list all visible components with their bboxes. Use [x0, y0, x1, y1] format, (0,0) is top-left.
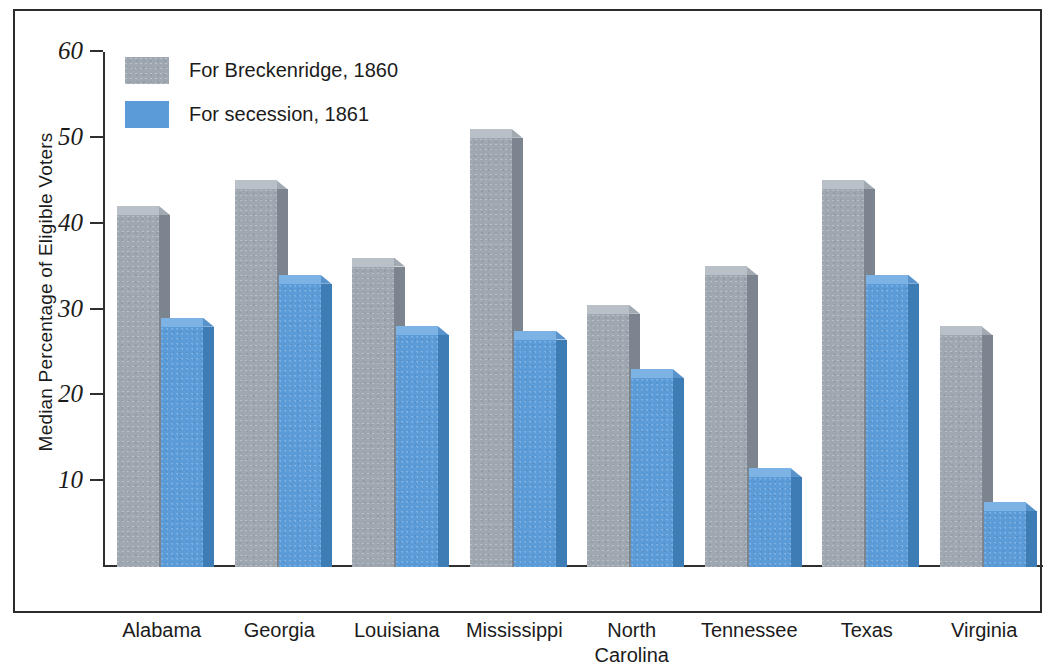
y-axis-tick — [90, 136, 103, 138]
bar-side-face — [908, 284, 919, 567]
legend-item: For Breckenridge, 1860 — [125, 55, 398, 86]
bar-top-corner — [277, 180, 288, 189]
bar-top-face — [984, 502, 1026, 511]
bar-top-face — [866, 275, 908, 284]
bar-top-face — [117, 206, 159, 215]
legend-item: For secession, 1861 — [125, 99, 398, 130]
bar-side-face — [1026, 511, 1037, 567]
bar-face — [587, 314, 629, 567]
bar-top-corner — [394, 258, 405, 267]
chart-frame: Median Percentage of Eligible Voters 102… — [13, 9, 1042, 613]
bar-face — [984, 511, 1026, 567]
bar-side-face — [673, 378, 684, 567]
bar-top-face — [631, 369, 673, 378]
bar-top-corner — [982, 326, 993, 335]
bar-face — [705, 275, 747, 567]
bar-side-face — [203, 327, 214, 567]
bar-top-corner — [1026, 502, 1037, 511]
bar-breckenridge — [117, 215, 159, 567]
bar-face — [822, 189, 864, 567]
bar-secession — [396, 335, 438, 567]
bar-breckenridge — [940, 335, 982, 567]
bar-top-corner — [203, 318, 214, 327]
bar-breckenridge — [587, 314, 629, 567]
bar-side-face — [438, 335, 449, 567]
bar-secession — [749, 477, 791, 567]
y-axis-tick-label: 30 — [19, 295, 83, 323]
bar-face — [161, 327, 203, 567]
bar-face — [631, 378, 673, 567]
bar-top-face — [514, 331, 556, 340]
bar-top-face — [822, 180, 864, 189]
y-axis-tick-label: 10 — [19, 466, 83, 494]
y-axis-tick-label: 40 — [19, 209, 83, 237]
y-axis-tick-label: 20 — [19, 380, 83, 408]
bar-face — [940, 335, 982, 567]
bar-face — [514, 340, 556, 567]
bar-top-corner — [629, 305, 640, 314]
bar-top-face — [235, 180, 277, 189]
bar-top-corner — [908, 275, 919, 284]
legend-label-breckenridge: For Breckenridge, 1860 — [189, 59, 398, 82]
bar-breckenridge — [352, 267, 394, 567]
bar-top-face — [749, 468, 791, 477]
bar-top-face — [470, 129, 512, 138]
bar-face — [235, 189, 277, 567]
bar-face — [749, 477, 791, 567]
y-axis-tick — [90, 222, 103, 224]
bar-top-face — [705, 266, 747, 275]
y-axis-tick-label: 50 — [19, 123, 83, 151]
bar-side-face — [321, 284, 332, 567]
y-axis-tick — [90, 479, 103, 481]
bar-face — [279, 284, 321, 567]
x-axis-label-line: Virginia — [916, 618, 1054, 643]
bar-side-face — [791, 477, 802, 567]
bar-face — [866, 284, 908, 567]
y-axis-tick — [90, 50, 103, 52]
bar-top-corner — [864, 180, 875, 189]
y-axis-line — [103, 52, 105, 567]
bar-top-corner — [673, 369, 684, 378]
legend-label-secession: For secession, 1861 — [189, 103, 369, 126]
y-axis-tick — [90, 393, 103, 395]
bar-secession — [984, 511, 1026, 567]
bar-top-corner — [747, 266, 758, 275]
bar-top-face — [352, 258, 394, 267]
bar-face — [352, 267, 394, 567]
bar-face — [470, 138, 512, 567]
bar-top-corner — [512, 129, 523, 138]
bar-face — [117, 215, 159, 567]
bar-secession — [514, 340, 556, 567]
bar-side-face — [556, 340, 567, 567]
y-axis-tick — [90, 308, 103, 310]
bar-top-corner — [159, 206, 170, 215]
legend-swatch-secession — [125, 101, 169, 128]
bar-secession — [866, 284, 908, 567]
bar-top-face — [587, 305, 629, 314]
y-axis-tick-label: 60 — [19, 37, 83, 65]
bar-breckenridge — [235, 189, 277, 567]
bar-top-corner — [556, 331, 567, 340]
bar-secession — [161, 327, 203, 567]
bar-breckenridge — [470, 138, 512, 567]
bar-top-face — [940, 326, 982, 335]
chart-legend: For Breckenridge, 1860 For secession, 18… — [125, 55, 398, 143]
x-axis-label-line: Carolina — [563, 643, 701, 666]
bar-top-corner — [438, 326, 449, 335]
legend-swatch-breckenridge — [125, 57, 169, 84]
bar-face — [396, 335, 438, 567]
bar-top-face — [396, 326, 438, 335]
x-axis-label-virginia: Virginia — [916, 618, 1054, 643]
bar-secession — [631, 378, 673, 567]
bar-secession — [279, 284, 321, 567]
bar-top-corner — [791, 468, 802, 477]
bar-top-face — [279, 275, 321, 284]
bar-top-corner — [321, 275, 332, 284]
bar-top-face — [161, 318, 203, 327]
bar-breckenridge — [822, 189, 864, 567]
bar-breckenridge — [705, 275, 747, 567]
